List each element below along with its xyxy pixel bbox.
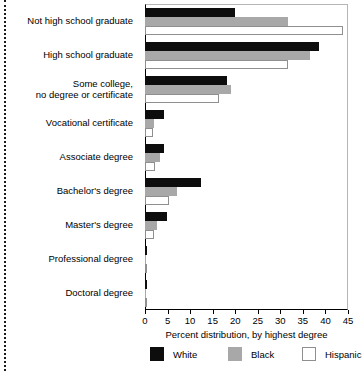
bar-white: [145, 178, 201, 187]
x-axis-tick-label: 5: [165, 315, 170, 327]
bar-chart: Not high school graduate High school gra…: [0, 0, 362, 371]
legend-item-hispanic: Hispanic: [302, 347, 362, 361]
category-label: Some college, no degree or certificate: [0, 72, 139, 106]
category-label: Master's degree: [0, 208, 139, 242]
x-axis-tick-label: 30: [275, 315, 286, 327]
category-label: Vocational certificate: [0, 106, 139, 140]
legend-swatch-icon: [302, 347, 316, 361]
bar-group: [145, 106, 348, 140]
x-axis-tick: [258, 310, 259, 314]
bar-hispanic: [145, 26, 343, 35]
bar-white: [145, 212, 167, 221]
x-axis-tick: [235, 310, 236, 314]
bar-hispanic: [145, 60, 288, 69]
legend-label: White: [173, 349, 197, 360]
bar-hispanic: [145, 298, 147, 307]
legend-swatch-icon: [228, 347, 242, 361]
category-label: Bachelor's degree: [0, 174, 139, 208]
x-axis-tick-label: 20: [230, 315, 241, 327]
bar-black: [145, 17, 288, 26]
x-axis-title: Percent distribution, by highest degree: [145, 329, 348, 340]
bar-group: [145, 72, 348, 106]
bar-hispanic: [145, 230, 154, 239]
x-axis-tick-label: 15: [207, 315, 218, 327]
category-label: Doctoral degree: [0, 276, 139, 310]
bar-white: [145, 8, 235, 17]
legend-item-white: White: [150, 347, 228, 361]
bar-group: [145, 4, 348, 38]
bar-white: [145, 144, 164, 153]
legend-label: Hispanic: [325, 349, 361, 360]
bar-white: [145, 110, 164, 119]
x-axis-tick: [145, 310, 146, 314]
bar-hispanic: [145, 264, 147, 273]
bar-white: [145, 280, 147, 289]
x-axis-tick-label: 45: [343, 315, 354, 327]
bar-black: [145, 51, 310, 60]
bar-group: [145, 276, 348, 310]
bar-white: [145, 76, 227, 85]
bar-white: [145, 42, 319, 51]
x-axis-tick-label: 0: [142, 315, 147, 327]
category-axis-labels: Not high school graduate High school gra…: [0, 4, 139, 310]
x-axis-tick: [280, 310, 281, 314]
x-axis-tick: [303, 310, 304, 314]
bar-black: [145, 119, 154, 128]
bar-black: [145, 187, 177, 196]
x-axis-tick-label: 40: [320, 315, 331, 327]
x-axis-tick: [348, 310, 349, 314]
x-axis-tick-label: 25: [252, 315, 263, 327]
bar-groups: [145, 4, 348, 310]
x-axis-tick-labels: 051015202530354045: [145, 315, 348, 328]
bar-black: [145, 153, 160, 162]
legend-item-black: Black: [228, 347, 302, 361]
plot-area: [145, 4, 348, 310]
bar-hispanic: [145, 196, 169, 205]
bar-black: [145, 221, 157, 230]
category-label: Not high school graduate: [0, 4, 139, 38]
bar-group: [145, 242, 348, 276]
category-label: Associate degree: [0, 140, 139, 174]
x-axis-tick: [213, 310, 214, 314]
x-axis-tick: [190, 310, 191, 314]
bar-hispanic: [145, 128, 153, 137]
x-axis-tick-label: 10: [185, 315, 196, 327]
bar-group: [145, 38, 348, 72]
x-axis-tick: [168, 310, 169, 314]
legend-swatch-icon: [150, 347, 164, 361]
category-label: Professional degree: [0, 242, 139, 276]
x-axis-tick-label: 35: [298, 315, 309, 327]
bar-black: [145, 85, 231, 94]
bar-white: [145, 246, 147, 255]
bar-hispanic: [145, 94, 219, 103]
legend: White Black Hispanic: [150, 347, 362, 361]
x-axis-tick: [325, 310, 326, 314]
legend-label: Black: [251, 349, 274, 360]
bar-group: [145, 174, 348, 208]
bar-black: [145, 255, 146, 264]
bar-group: [145, 140, 348, 174]
category-label: High school graduate: [0, 38, 139, 72]
bar-black: [145, 289, 146, 298]
bar-group: [145, 208, 348, 242]
bar-hispanic: [145, 162, 155, 171]
